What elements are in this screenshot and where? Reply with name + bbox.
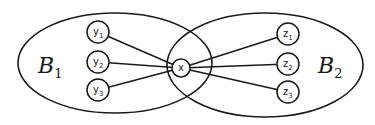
node-x: x — [172, 59, 190, 77]
edge-x-z3 — [181, 68, 288, 92]
set-b2-label: B2 — [317, 53, 342, 81]
node-z3: z3 — [277, 81, 299, 103]
node-x-label: x — [178, 62, 184, 73]
node-y3: y3 — [87, 79, 109, 101]
edge-x-z2 — [181, 64, 288, 68]
node-z2: z2 — [277, 53, 299, 75]
edge-y3-x — [98, 68, 181, 90]
node-y1: y1 — [87, 21, 109, 43]
set-b1-label: B1 — [37, 53, 62, 81]
node-z1: z1 — [277, 23, 299, 45]
diagram-canvas: y1y2y3z1z2z3x B1B2 — [0, 0, 375, 125]
edge-x-z1 — [181, 34, 288, 68]
edges — [98, 32, 288, 92]
node-y2: y2 — [87, 51, 109, 73]
